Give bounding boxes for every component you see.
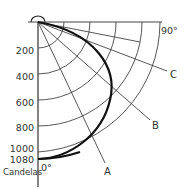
angle-90-label: 90° xyxy=(161,25,178,36)
arc-1000 xyxy=(38,22,160,152)
tick-400: 400 xyxy=(16,71,34,82)
iso-arcs xyxy=(38,22,160,152)
angle-0-label: 0° xyxy=(41,162,52,173)
lamp-icon xyxy=(31,16,45,22)
polar-diagram: 200 400 600 800 1000 1080 Candelas 0° 90… xyxy=(0,0,189,189)
ray-label-c: C xyxy=(170,69,177,80)
tick-200: 200 xyxy=(16,45,34,56)
unit-label: Candelas xyxy=(3,167,43,177)
radial-lines xyxy=(38,22,167,163)
tick-1000: 1000 xyxy=(10,143,34,154)
ray-label-a: A xyxy=(104,166,111,177)
arc-800 xyxy=(38,22,142,126)
ray-label-b: B xyxy=(152,120,159,131)
ray-a xyxy=(38,22,105,163)
tick-800: 800 xyxy=(16,122,34,133)
tick-600: 600 xyxy=(16,97,34,108)
tick-1080: 1080 xyxy=(10,154,34,165)
